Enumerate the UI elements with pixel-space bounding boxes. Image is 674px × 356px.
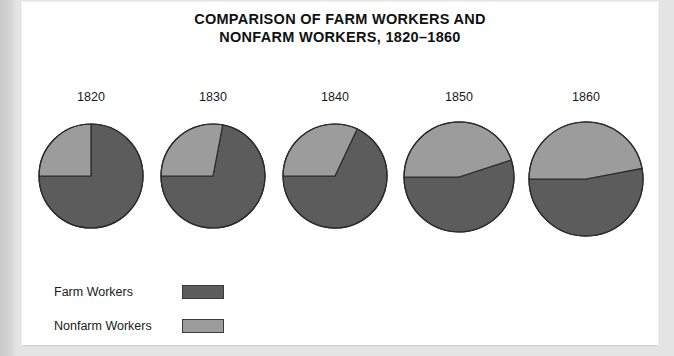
legend-label: Nonfarm Workers bbox=[54, 319, 182, 333]
pie-chart-1820 bbox=[37, 122, 145, 230]
legend-item-farm-workers: Farm Workers bbox=[54, 280, 224, 304]
chart-title: COMPARISON OF FARM WORKERS AND NONFARM W… bbox=[22, 10, 658, 46]
year-label-1850: 1850 bbox=[429, 90, 489, 104]
pie-chart-1830 bbox=[159, 122, 267, 230]
year-label-1860: 1860 bbox=[556, 90, 616, 104]
pie-slice-nonfarm-workers bbox=[529, 122, 642, 179]
pie-slice-nonfarm-workers bbox=[39, 124, 91, 176]
year-label-1830: 1830 bbox=[183, 90, 243, 104]
legend-swatch bbox=[182, 285, 224, 299]
chart-title-line-2: NONFARM WORKERS, 1820–1860 bbox=[22, 28, 658, 46]
chart-legend: Farm WorkersNonfarm Workers bbox=[54, 280, 224, 348]
year-label-1840: 1840 bbox=[305, 90, 365, 104]
year-label-1820: 1820 bbox=[61, 90, 121, 104]
legend-item-nonfarm-workers: Nonfarm Workers bbox=[54, 314, 224, 338]
chart-title-line-1: COMPARISON OF FARM WORKERS AND bbox=[22, 10, 658, 28]
pie-charts-row bbox=[22, 114, 658, 242]
year-labels-row: 18201830184018501860 bbox=[22, 90, 658, 108]
pie-chart-1850 bbox=[402, 120, 516, 234]
chart-page: COMPARISON OF FARM WORKERS AND NONFARM W… bbox=[22, 2, 658, 345]
legend-swatch bbox=[182, 319, 224, 333]
legend-label: Farm Workers bbox=[54, 285, 182, 299]
pie-slice-nonfarm-workers bbox=[161, 124, 223, 176]
pie-chart-1860 bbox=[527, 120, 645, 238]
pie-chart-1840 bbox=[281, 122, 389, 230]
